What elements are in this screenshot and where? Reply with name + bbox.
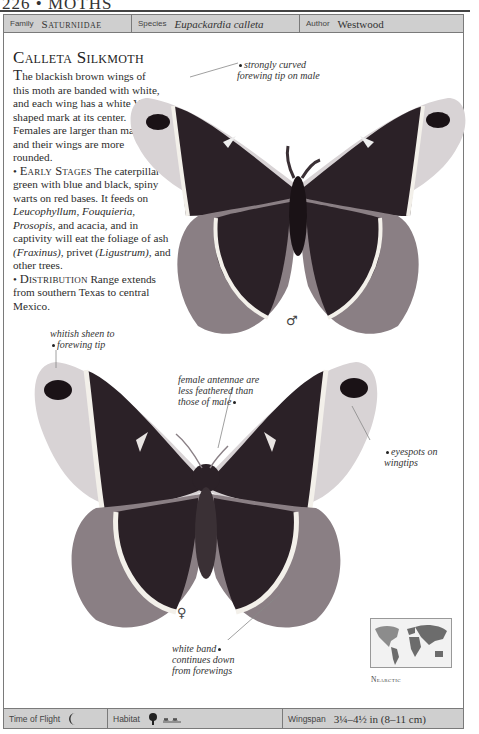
wingspan-cell: Wingspan 3¼–4½ in (8–11 cm) <box>283 709 463 728</box>
male-moth-illustration <box>128 86 468 346</box>
plant-name: Fouquieria <box>82 205 132 217</box>
habitat-label: Habitat <box>113 714 140 724</box>
annotation-whitish-sheen: whitish sheen to forewing tip <box>50 328 114 350</box>
map-region-label: Nearctic <box>371 675 401 684</box>
annotation-line: continues down <box>172 654 235 665</box>
pointer-dot-icon <box>52 344 55 347</box>
early-stages-heading: Early Stages <box>20 164 92 178</box>
species-title: Calleta Silkmoth <box>13 48 144 68</box>
pointer-dot-icon <box>233 401 236 404</box>
section-title: MOTHS <box>48 0 113 13</box>
footer-bar: Time of Flight Habitat Wingspan 3¼–4½ in… <box>3 708 464 729</box>
distribution-heading: Distribution <box>20 272 88 286</box>
pointer-dot-icon <box>218 648 221 651</box>
header-separator: • <box>36 0 43 13</box>
plant-name: Leucophyllum <box>13 205 76 217</box>
tree-icon <box>148 713 158 725</box>
wingspan-label: Wingspan <box>288 714 326 724</box>
early-stages-text: , privet <box>61 246 96 258</box>
family-label: Family <box>10 19 34 28</box>
time-of-flight-label: Time of Flight <box>9 714 60 724</box>
pointer-line <box>54 350 58 368</box>
annotation-line: wingtips <box>384 457 437 468</box>
scrub-icon <box>163 715 181 723</box>
plant-name: (Fraxinus) <box>13 246 61 258</box>
drop-cap: T <box>13 67 22 83</box>
annotation-line: those of male <box>178 396 231 407</box>
annotation-line: female antennae are <box>178 374 259 385</box>
species-cell: Species Eupackardia calleta <box>132 15 300 32</box>
pointer-line <box>190 61 240 79</box>
annotation-line: less feathered than <box>178 385 259 396</box>
annotation-line: white band <box>172 643 216 654</box>
bullet-icon: • <box>13 165 17 177</box>
annotation-white-band: white band continues down from forewings <box>172 643 235 676</box>
family-value: Saturniidae <box>42 18 102 30</box>
species-label: Species <box>138 19 166 28</box>
author-cell: Author Westwood <box>300 15 463 32</box>
page-number: 226 <box>2 0 31 13</box>
pointer-dot-icon <box>386 451 389 454</box>
page-header: 226 • MOTHS <box>0 0 470 12</box>
author-value: Westwood <box>338 18 384 30</box>
info-bar: Family Saturniidae Species Eupackardia c… <box>3 14 464 33</box>
annotation-line: strongly curved <box>244 59 306 70</box>
annotation-line: from forewings <box>172 665 235 676</box>
family-cell: Family Saturniidae <box>4 15 132 32</box>
distribution-map <box>370 618 452 668</box>
annotation-female-antennae: female antennae are less feathered than … <box>178 374 259 407</box>
annotation-line: forewing tip on male <box>237 70 320 81</box>
annotation-eyespots: eyespots on wingtips <box>384 446 437 468</box>
annotation-line: forewing tip <box>57 339 105 350</box>
female-symbol: ♀ <box>177 605 187 620</box>
world-map-icon <box>371 619 451 667</box>
bullet-icon: • <box>13 273 17 285</box>
annotation-line: eyespots on <box>391 446 437 457</box>
author-label: Author <box>306 19 330 28</box>
male-symbol: ♂ <box>286 313 298 328</box>
plant-name: Prosopis <box>13 219 52 231</box>
annotation-line: whitish sheen to <box>50 328 114 339</box>
time-of-flight-cell: Time of Flight <box>4 709 108 728</box>
species-value: Eupackardia calleta <box>174 18 263 30</box>
wingspan-value: 3¼–4½ in (8–11 cm) <box>334 713 426 725</box>
annotation-male-forewing-tip: strongly curved forewing tip on male <box>237 59 320 81</box>
crescent-moon-icon <box>68 713 78 725</box>
habitat-cell: Habitat <box>108 709 283 728</box>
